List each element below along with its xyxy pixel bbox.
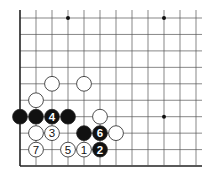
white-stone	[109, 126, 124, 141]
stone-circle	[61, 109, 76, 124]
black-stone	[61, 109, 76, 124]
black-stone	[77, 126, 92, 141]
stone-circle	[77, 76, 92, 91]
star-point	[66, 16, 70, 20]
black-stone-move-4: 4	[45, 109, 60, 124]
stone-circle	[29, 109, 44, 124]
white-stone-move-7: 7	[29, 142, 44, 157]
move-number: 7	[33, 144, 39, 156]
white-stone-move-3: 3	[45, 126, 60, 141]
move-number: 1	[81, 144, 87, 156]
stone-circle	[13, 109, 28, 124]
black-stone	[29, 109, 44, 124]
move-number: 4	[49, 111, 56, 123]
stone-circle	[45, 76, 60, 91]
star-point	[162, 115, 166, 119]
move-number: 3	[49, 127, 55, 139]
white-stone	[77, 76, 92, 91]
white-stone	[29, 126, 44, 141]
stone-circle	[93, 109, 108, 124]
move-number: 5	[65, 144, 71, 156]
stone-circle	[109, 126, 124, 141]
stone-circle	[77, 126, 92, 141]
move-number: 6	[97, 127, 103, 139]
white-stone-move-5: 5	[61, 142, 76, 157]
white-stone-move-1: 1	[77, 142, 92, 157]
black-stone-move-6: 6	[93, 126, 108, 141]
white-stone	[29, 93, 44, 108]
black-stone	[13, 109, 28, 124]
star-point	[162, 16, 166, 20]
white-stone	[93, 109, 108, 124]
go-board: 4367512	[0, 0, 213, 182]
stone-circle	[29, 93, 44, 108]
white-stone	[45, 76, 60, 91]
black-stone-move-2: 2	[93, 142, 108, 157]
stone-circle	[29, 126, 44, 141]
move-number: 2	[97, 144, 103, 156]
